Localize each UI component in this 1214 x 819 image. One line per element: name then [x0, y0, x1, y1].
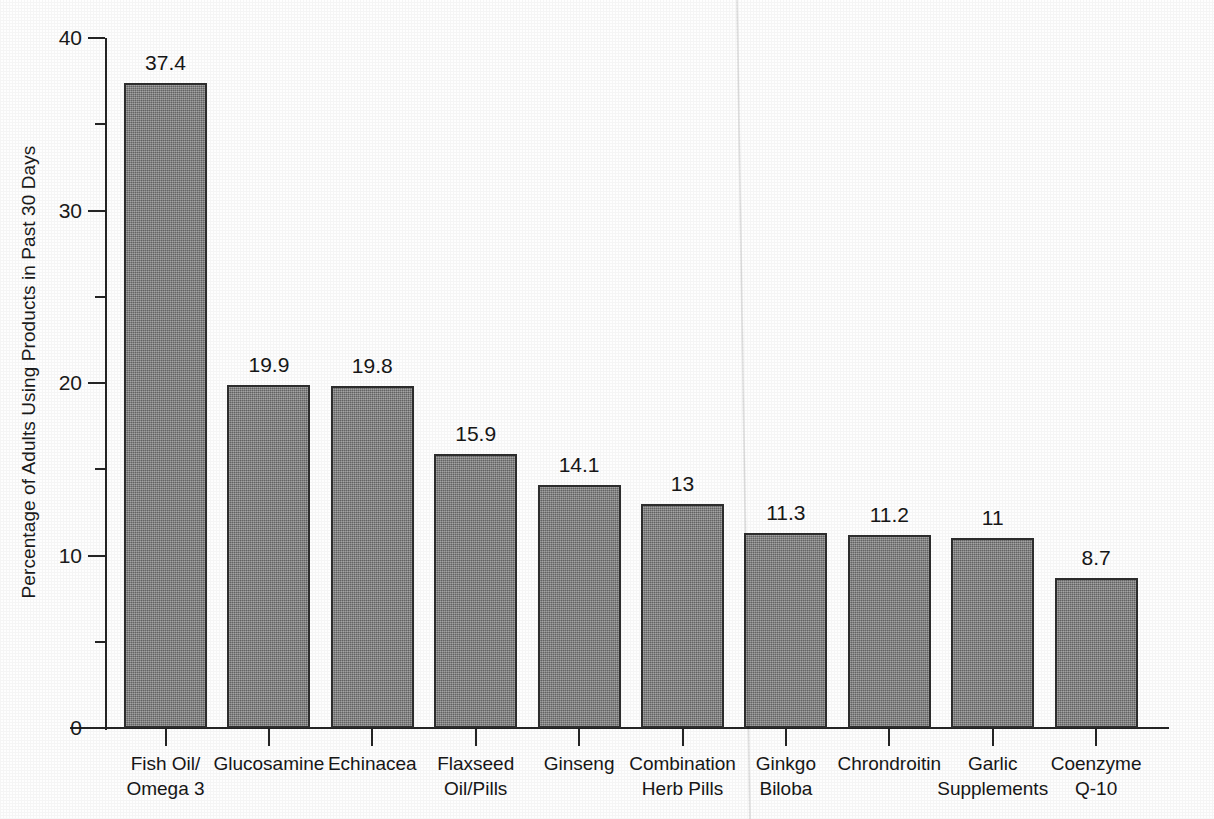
bar-value-label: 8.7	[1046, 547, 1146, 568]
y-tick-label: 0	[34, 717, 82, 738]
y-tick-label: 40	[34, 27, 82, 48]
y-tick-label: 30	[34, 200, 82, 221]
chart-page: Percentage of Adults Using Products in P…	[0, 0, 1214, 819]
bar	[227, 385, 310, 728]
bar	[331, 386, 414, 728]
x-axis-category-label: CoenzymeQ-10	[1021, 751, 1171, 801]
x-tick	[578, 729, 580, 746]
y-tick-minor	[95, 296, 105, 298]
x-label-line: Coenzyme	[1021, 751, 1171, 776]
y-tick-major	[88, 727, 105, 729]
x-tick	[992, 729, 994, 746]
bar	[124, 83, 207, 728]
y-tick-label: 20	[34, 372, 82, 393]
x-tick	[371, 729, 373, 746]
bar-value-label: 14.1	[529, 454, 629, 475]
y-tick-minor	[95, 123, 105, 125]
x-tick	[268, 729, 270, 746]
x-tick	[1095, 729, 1097, 746]
bar	[1055, 578, 1138, 728]
bar-value-label: 11	[943, 507, 1043, 528]
bar	[848, 535, 931, 728]
bar	[641, 504, 724, 728]
y-tick-major	[88, 382, 105, 384]
y-axis-line	[105, 38, 107, 730]
bar-chart: Percentage of Adults Using Products in P…	[0, 0, 1214, 819]
x-tick	[888, 729, 890, 746]
x-label-line: Q-10	[1021, 776, 1171, 801]
x-tick	[682, 729, 684, 746]
x-label-line: Biloba	[711, 776, 861, 801]
bar-value-label: 11.2	[839, 504, 939, 525]
x-tick	[475, 729, 477, 746]
bar	[951, 538, 1034, 728]
bar	[434, 454, 517, 728]
x-label-line: Oil/Pills	[401, 776, 551, 801]
x-label-line: Omega 3	[91, 776, 241, 801]
y-tick-major	[88, 555, 105, 557]
y-tick-minor	[95, 641, 105, 643]
y-tick-label: 10	[34, 545, 82, 566]
x-tick	[165, 729, 167, 746]
bar-value-label: 19.9	[219, 354, 319, 375]
bar-value-label: 15.9	[426, 423, 526, 444]
bar-value-label: 11.3	[736, 502, 836, 523]
bar-value-label: 37.4	[116, 52, 216, 73]
x-tick	[785, 729, 787, 746]
bar-value-label: 13	[633, 473, 733, 494]
bar	[744, 533, 827, 728]
y-tick-major	[88, 37, 105, 39]
bar-value-label: 19.8	[322, 355, 422, 376]
y-tick-minor	[95, 468, 105, 470]
bar	[538, 485, 621, 728]
y-tick-major	[88, 210, 105, 212]
